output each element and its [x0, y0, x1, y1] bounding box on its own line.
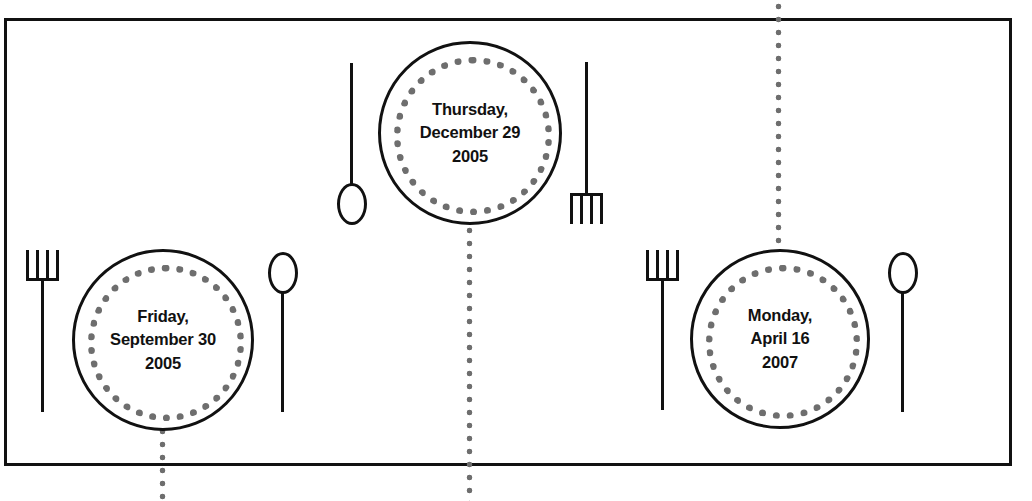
fork-tine — [26, 250, 29, 278]
fork-handle — [585, 62, 588, 195]
fork-right-setting — [646, 250, 680, 410]
table-bottom-edge — [4, 463, 1012, 466]
table-right-edge — [1009, 18, 1012, 466]
spoon-top-setting — [337, 63, 369, 221]
table-top-edge — [4, 18, 1012, 21]
fork-tine — [580, 196, 583, 224]
fork-tine — [56, 250, 59, 278]
plate-right-label: Monday, April 16 2007 — [693, 304, 867, 374]
spoon-handle — [281, 292, 284, 412]
table-left-edge — [4, 18, 7, 466]
fork-tine — [590, 196, 593, 224]
spoon-right-setting — [888, 252, 920, 412]
fork-tine — [46, 250, 49, 278]
spoon-handle — [350, 63, 353, 187]
plate-left-label: Friday, September 30 2005 — [75, 305, 251, 375]
place-settings-diagram: Friday, September 30 2005 Thursday, Dece… — [0, 0, 1032, 501]
plate-left-setting[interactable]: Friday, September 30 2005 — [72, 249, 254, 431]
fork-tine — [36, 250, 39, 278]
fork-tine — [646, 250, 649, 278]
fork-handle — [41, 281, 44, 412]
spoon-bowl — [337, 183, 367, 225]
spoon-left-setting — [268, 252, 300, 412]
fork-left-setting — [26, 250, 60, 412]
spoon-bowl — [268, 252, 298, 294]
fork-tine — [600, 196, 603, 224]
fork-top-setting — [570, 62, 604, 226]
fork-tine — [666, 250, 669, 278]
plate-top-label: Thursday, December 29 2005 — [381, 98, 559, 168]
spoon-bowl — [888, 252, 918, 294]
fork-tine — [676, 250, 679, 278]
spoon-handle — [901, 292, 904, 412]
connector-line-middle — [466, 224, 473, 501]
fork-neck-bar — [570, 193, 603, 196]
plate-top-setting[interactable]: Thursday, December 29 2005 — [378, 41, 562, 225]
connector-line-left — [159, 425, 166, 501]
plate-right-setting[interactable]: Monday, April 16 2007 — [690, 249, 870, 429]
fork-handle — [661, 281, 664, 410]
connector-line-right — [775, 0, 782, 256]
fork-tine — [570, 196, 573, 224]
fork-tine — [656, 250, 659, 278]
